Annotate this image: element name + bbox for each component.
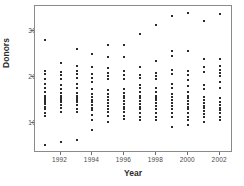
data-point	[203, 113, 205, 115]
data-points-layer	[35, 6, 231, 151]
data-point	[107, 108, 109, 110]
data-point	[187, 74, 189, 76]
y-axis-tick-label: 30	[14, 27, 36, 34]
data-point	[44, 83, 46, 85]
data-point	[155, 108, 157, 110]
data-point	[76, 92, 78, 94]
x-axis-tick-label: 1998	[140, 156, 170, 163]
data-point	[203, 96, 205, 98]
data-point	[60, 101, 62, 103]
data-point	[44, 115, 46, 117]
data-point	[91, 66, 93, 68]
data-point	[171, 87, 173, 89]
data-point	[76, 73, 78, 75]
data-point	[107, 44, 109, 46]
data-point	[139, 103, 141, 105]
data-point	[219, 13, 221, 15]
data-point	[187, 116, 189, 118]
data-point	[107, 99, 109, 101]
data-point	[187, 70, 189, 72]
plot-area	[34, 5, 232, 152]
data-point	[219, 65, 221, 67]
data-point	[44, 70, 46, 72]
data-point	[123, 88, 125, 90]
data-point	[76, 111, 78, 113]
x-axis-tick-mark	[155, 152, 156, 155]
data-point	[139, 77, 141, 79]
data-point	[155, 105, 157, 107]
data-point	[171, 50, 173, 52]
data-point	[203, 99, 205, 101]
data-point	[76, 70, 78, 72]
data-point	[123, 78, 125, 80]
data-point	[187, 119, 189, 121]
data-point	[219, 58, 221, 60]
data-point	[123, 111, 125, 113]
data-point	[155, 116, 157, 118]
data-point	[155, 99, 157, 101]
data-point	[107, 105, 109, 107]
data-point	[107, 89, 109, 91]
data-point	[91, 119, 93, 121]
x-axis-tick-label: 1996	[108, 156, 138, 163]
donors-by-year-scatter-figure: Donors 102030 199219941996199820002002 Y…	[0, 0, 244, 186]
data-point	[155, 95, 157, 97]
data-point	[203, 20, 205, 22]
data-point	[219, 87, 221, 89]
data-point	[219, 116, 221, 118]
data-point	[76, 95, 78, 97]
data-point	[76, 48, 78, 50]
data-point	[171, 73, 173, 75]
data-point	[123, 74, 125, 76]
data-point	[44, 112, 46, 114]
data-point	[60, 62, 62, 64]
data-point	[139, 106, 141, 108]
data-point	[91, 73, 93, 75]
data-point	[44, 73, 46, 75]
data-point	[107, 93, 109, 95]
data-point	[139, 84, 141, 86]
y-axis-title: Donors	[1, 23, 11, 83]
data-point	[76, 83, 78, 85]
data-point	[187, 91, 189, 93]
data-point	[155, 75, 157, 77]
data-point	[123, 108, 125, 110]
data-point	[139, 97, 141, 99]
data-point	[76, 65, 78, 67]
data-point	[60, 92, 62, 94]
data-point	[171, 69, 173, 71]
data-point	[60, 84, 62, 86]
x-axis-tick-mark	[123, 152, 124, 155]
data-point	[60, 71, 62, 73]
data-point	[91, 129, 93, 131]
data-point	[91, 88, 93, 90]
data-point	[139, 112, 141, 114]
data-point	[139, 116, 141, 118]
data-point	[123, 56, 125, 58]
data-point	[76, 101, 78, 103]
data-point	[171, 93, 173, 95]
data-point	[76, 139, 78, 141]
data-point	[171, 99, 173, 101]
data-point	[91, 104, 93, 106]
data-point	[139, 87, 141, 89]
data-point	[187, 112, 189, 114]
data-point	[91, 114, 93, 116]
x-axis-tick-label: 2000	[172, 156, 202, 163]
data-point	[171, 126, 173, 128]
x-axis-tick-mark	[60, 152, 61, 155]
data-point	[139, 66, 141, 68]
data-point	[155, 91, 157, 93]
data-point	[171, 108, 173, 110]
data-point	[91, 53, 93, 55]
data-point	[76, 87, 78, 89]
data-point	[44, 78, 46, 80]
data-point	[44, 106, 46, 108]
data-point	[155, 102, 157, 104]
data-point	[219, 75, 221, 77]
data-point	[219, 119, 221, 121]
data-point	[155, 112, 157, 114]
data-point	[139, 100, 141, 102]
data-point	[203, 116, 205, 118]
data-point	[187, 85, 189, 87]
